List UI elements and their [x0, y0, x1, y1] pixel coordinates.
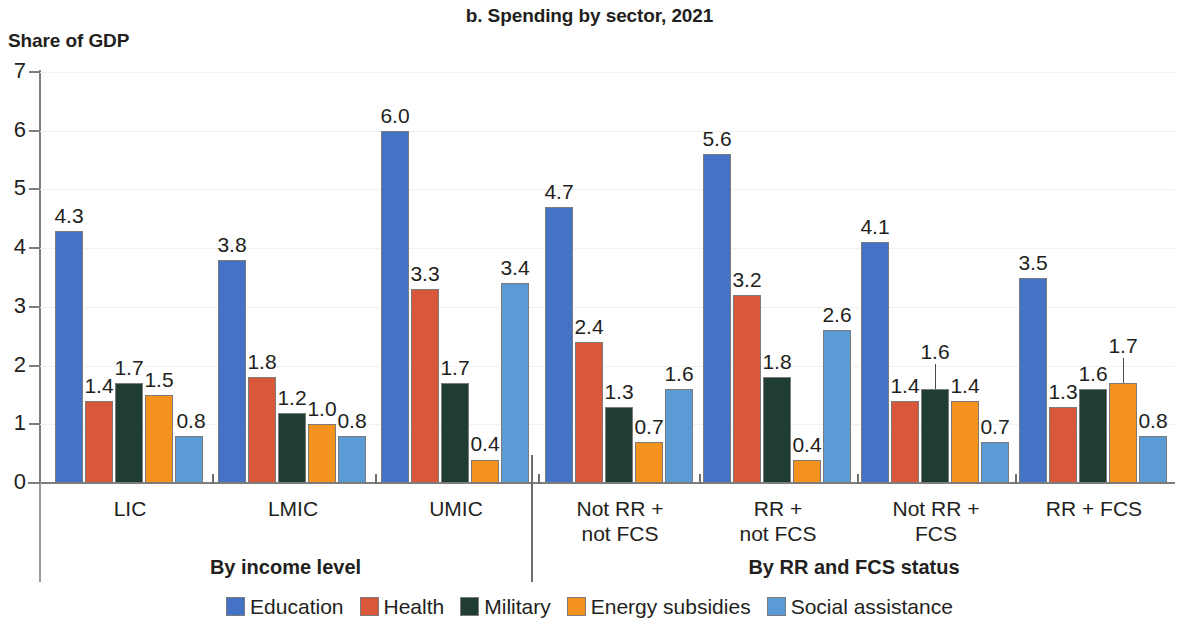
bar [891, 401, 919, 483]
bar-value-label: 0.8 [172, 410, 210, 431]
category-label-line: RR + FCS [1004, 496, 1179, 521]
bar [733, 295, 761, 483]
legend-item[interactable]: Health [360, 596, 445, 617]
legend-item[interactable]: Education [226, 596, 343, 617]
bar-value-label: 0.8 [1134, 410, 1172, 431]
bar [605, 407, 633, 483]
legend-label: Social assistance [791, 596, 953, 617]
label-leader-line [935, 364, 936, 389]
legend-label: Education [250, 596, 343, 617]
chart-legend: EducationHealthMilitaryEnergy subsidiesS… [0, 596, 1179, 617]
bar [308, 424, 336, 483]
bar-value-label: 1.7 [436, 357, 474, 378]
bar-value-label: 1.8 [243, 351, 281, 372]
bar [175, 436, 203, 483]
legend-swatch-icon [226, 597, 245, 616]
legend-item[interactable]: Military [460, 596, 551, 617]
legend-swatch-icon [460, 597, 479, 616]
bar [951, 401, 979, 483]
bar-value-label: 5.6 [698, 128, 736, 149]
bar-value-label: 3.8 [213, 234, 251, 255]
category-label: RR + FCS [1004, 496, 1179, 521]
category-label: LMIC [203, 496, 383, 521]
bar-value-label: 2.6 [818, 304, 856, 325]
legend-item[interactable]: Social assistance [767, 596, 953, 617]
bar-value-label: 0.4 [788, 434, 826, 455]
category-label-line: Not RR + [846, 496, 1026, 521]
bar [1079, 389, 1107, 483]
legend-label: Health [384, 596, 445, 617]
category-tick [212, 474, 214, 484]
category-label: LIC [40, 496, 220, 521]
legend-swatch-icon [567, 597, 586, 616]
category-label: Not RR +FCS [846, 496, 1026, 546]
bar [703, 154, 731, 483]
bar [1139, 436, 1167, 483]
bar [115, 383, 143, 483]
bar [441, 383, 469, 483]
bar-value-label: 3.3 [406, 263, 444, 284]
category-tick [375, 474, 377, 484]
bar [763, 377, 791, 483]
bar-value-label: 4.7 [540, 181, 578, 202]
bar [145, 395, 173, 483]
bar [338, 436, 366, 483]
bar-value-label: 3.5 [1014, 252, 1052, 273]
bar-value-label: 1.5 [140, 369, 178, 390]
category-label-line: FCS [846, 521, 1026, 546]
category-label: UMIC [366, 496, 546, 521]
category-tick [857, 474, 859, 484]
bar-value-label: 1.8 [758, 351, 796, 372]
bar [1019, 278, 1047, 484]
bar-value-label: 1.4 [946, 375, 984, 396]
bar [793, 460, 821, 483]
legend-item[interactable]: Energy subsidies [567, 596, 751, 617]
legend-swatch-icon [360, 597, 379, 616]
bar-value-label: 0.7 [630, 416, 668, 437]
bar [1109, 383, 1137, 483]
bar-value-label: 0.7 [976, 416, 1014, 437]
bar [248, 377, 276, 483]
category-label-line: not FCS [688, 521, 868, 546]
section-label: By income level [40, 556, 531, 579]
bar-value-label: 3.4 [496, 257, 534, 278]
bar-value-label: 2.4 [570, 316, 608, 337]
category-label: RR +not FCS [688, 496, 868, 546]
section-label: By RR and FCS status [533, 556, 1175, 579]
legend-swatch-icon [767, 597, 786, 616]
bar-value-label: 4.3 [50, 205, 88, 226]
bar-value-label: 0.4 [466, 433, 504, 454]
category-tick [699, 474, 701, 484]
bar [218, 260, 246, 483]
category-label-line: LMIC [203, 496, 383, 521]
bar [85, 401, 113, 483]
bar [55, 231, 83, 483]
bar-value-label: 1.7 [1104, 335, 1142, 356]
bar [981, 442, 1009, 483]
category-label-line: RR + [688, 496, 868, 521]
bar-value-label: 1.6 [660, 363, 698, 384]
bar-value-label: 4.1 [856, 216, 894, 237]
category-tick [538, 474, 540, 484]
bar [665, 389, 693, 483]
category-tick [1015, 474, 1017, 484]
bar [278, 413, 306, 483]
bar [921, 389, 949, 483]
category-label-line: Not RR + [530, 496, 710, 521]
bar-value-label: 3.2 [728, 269, 766, 290]
legend-label: Military [484, 596, 551, 617]
bar [471, 460, 499, 483]
bar-value-label: 1.3 [600, 381, 638, 402]
bar-value-label: 1.4 [886, 375, 924, 396]
bar [381, 131, 409, 483]
bar [1049, 407, 1077, 483]
bar [823, 330, 851, 483]
category-label: Not RR +not FCS [530, 496, 710, 546]
bar-value-label: 1.6 [916, 341, 954, 362]
bar-value-label: 1.6 [1074, 363, 1112, 384]
category-label-line: LIC [40, 496, 220, 521]
category-label-line: UMIC [366, 496, 546, 521]
bar [411, 289, 439, 483]
legend-label: Energy subsidies [591, 596, 751, 617]
bar [501, 283, 529, 483]
